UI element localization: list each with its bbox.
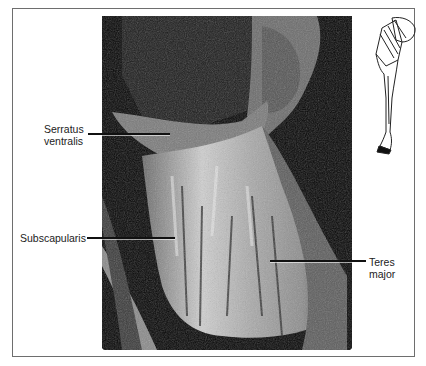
- label-subscapularis: Subscapularis: [20, 232, 86, 244]
- label-text: Teres: [369, 256, 395, 268]
- leader-line-teres: [270, 260, 366, 262]
- label-text: major: [369, 268, 395, 280]
- label-serratus-ventralis: Serratus ventralis: [44, 123, 84, 147]
- horse-forelimb-inset-icon: [362, 14, 420, 159]
- dissection-photo: [102, 16, 352, 350]
- label-text: Serratus: [44, 123, 84, 135]
- label-text: ventralis: [44, 135, 84, 147]
- leader-line-serratus: [88, 133, 170, 135]
- leader-line-subscapularis: [87, 237, 175, 239]
- label-text: Subscapularis: [20, 232, 86, 244]
- label-teres-major: Teres major: [369, 256, 395, 280]
- photo-illustration: [102, 16, 352, 350]
